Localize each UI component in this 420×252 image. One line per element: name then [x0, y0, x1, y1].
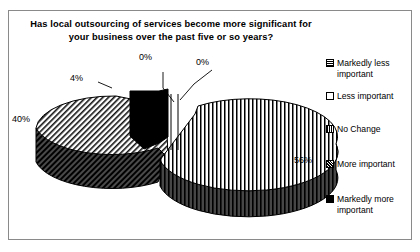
diagonal-hatch-swatch-icon — [326, 160, 334, 168]
pie-label-markedly-more-important: 4% — [70, 73, 83, 83]
legend-label: Markedly less important — [337, 58, 418, 80]
pie-label-less-important: 0% — [196, 57, 209, 67]
legend-item-more-important: More important — [326, 159, 418, 170]
legend-label: No Change — [337, 124, 380, 135]
legend-item-no-change: No Change — [326, 124, 418, 135]
solid-black-swatch-icon — [326, 195, 334, 203]
legend-item-markedly-less-important: Markedly less important — [326, 58, 418, 80]
legend-item-markedly-more-important: Markedly more important — [326, 194, 418, 216]
horizontal-lines-swatch-icon — [326, 59, 334, 67]
legend-item-less-important: Less important — [326, 91, 418, 102]
legend-label: Less important — [337, 91, 393, 102]
white-swatch-icon — [326, 92, 334, 100]
legend-label: Markedly more important — [337, 194, 418, 216]
vertical-lines-swatch-icon — [326, 125, 334, 133]
pie-slice-markedly-more-important — [130, 89, 168, 149]
pie-label-no-change: 56% — [294, 155, 312, 165]
pie-label-markedly-less-important: 0% — [139, 52, 152, 62]
chart-legend: Markedly less important Less important N… — [326, 58, 418, 216]
pie-label-more-important: 40% — [12, 114, 30, 124]
legend-label: More important — [337, 159, 395, 170]
